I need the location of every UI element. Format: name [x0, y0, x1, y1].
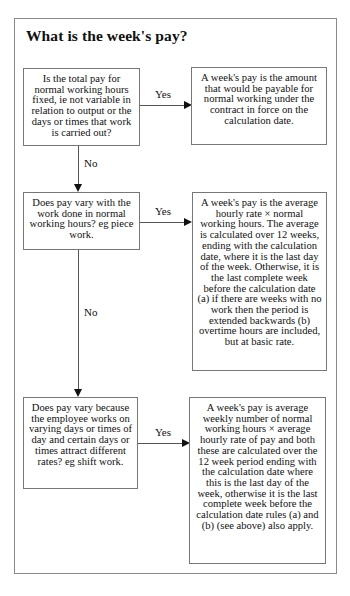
- yes-label-2: Yes: [155, 205, 171, 217]
- question-text: Is the total pay for normal working hour…: [28, 74, 135, 138]
- question-text: Does pay vary because the employee works…: [28, 403, 133, 467]
- yes-label-1: Yes: [155, 88, 171, 100]
- answer-text: A week's pay is the average hourly rate …: [197, 198, 322, 348]
- question-box-shift-work: Does pay vary because the employee works…: [23, 397, 138, 489]
- question-box-piece-work: Does pay vary with the work done in norm…: [23, 192, 140, 250]
- no-connector-1: [78, 146, 79, 185]
- arrow-right-icon: [184, 218, 192, 226]
- flowchart-title: What is the week's pay?: [26, 27, 188, 45]
- no-label-1: No: [84, 157, 97, 169]
- answer-text: A week's pay is the amount that would be…: [196, 73, 322, 127]
- no-label-2: No: [84, 306, 97, 318]
- yes-label-3: Yes: [155, 426, 171, 438]
- yes-connector-1: [140, 105, 184, 106]
- answer-text: A week's pay is average weekly number of…: [194, 403, 321, 531]
- question-box-fixed-pay: Is the total pay for normal working hour…: [23, 68, 140, 146]
- arrow-down-icon: [74, 184, 82, 192]
- arrow-down-icon: [74, 389, 82, 397]
- no-connector-2: [78, 250, 79, 390]
- answer-box-fixed-pay: A week's pay is the amount that would be…: [191, 67, 327, 145]
- yes-connector-2: [140, 222, 184, 223]
- question-text: Does pay vary with the work done in norm…: [28, 198, 135, 241]
- answer-box-shift-work: A week's pay is average weekly number of…: [189, 397, 326, 564]
- yes-connector-3: [138, 443, 182, 444]
- answer-box-piece-work: A week's pay is the average hourly rate …: [192, 192, 327, 371]
